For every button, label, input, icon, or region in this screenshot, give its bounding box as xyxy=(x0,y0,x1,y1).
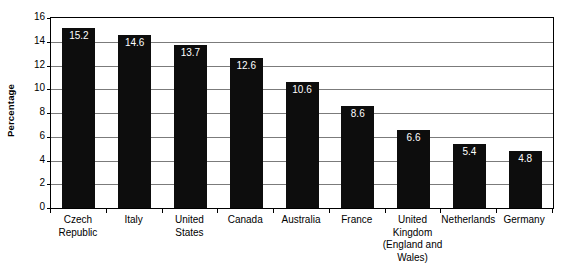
bar-value-label: 12.6 xyxy=(230,60,263,71)
x-axis-tick-mark xyxy=(273,208,274,213)
x-axis-category-label: Germany xyxy=(490,214,558,227)
bar: 15.2 xyxy=(62,28,95,209)
bar: 5.4 xyxy=(453,144,486,208)
x-axis-category-label-line: Republic xyxy=(44,227,112,240)
y-axis-tick-label: 6 xyxy=(22,131,45,141)
bar: 6.6 xyxy=(397,130,430,208)
x-axis-tick-mark xyxy=(162,208,163,213)
x-axis-tick-mark xyxy=(496,208,497,213)
x-axis-tick-mark xyxy=(106,208,107,213)
bar-value-label: 8.6 xyxy=(341,108,374,119)
bar: 14.6 xyxy=(118,35,151,208)
bar-value-label: 5.4 xyxy=(453,146,486,157)
y-axis-tick-label: 2 xyxy=(22,178,45,188)
x-axis-category-label-line: (England and xyxy=(379,239,447,252)
x-axis-tick-mark xyxy=(217,208,218,213)
bar-value-label: 14.6 xyxy=(118,37,151,48)
x-axis-category-label-line: States xyxy=(156,227,224,240)
bar: 13.7 xyxy=(174,45,207,208)
bar: 4.8 xyxy=(509,151,542,208)
y-axis-tick-label: 12 xyxy=(22,60,45,70)
y-axis-title: Percentage xyxy=(0,60,22,160)
x-axis-tick-mark xyxy=(552,208,553,213)
bar: 12.6 xyxy=(230,58,263,208)
y-axis-title-label: Percentage xyxy=(6,83,17,136)
x-axis-tick-mark xyxy=(385,208,386,213)
y-axis-tick-label: 16 xyxy=(22,12,45,22)
bar: 8.6 xyxy=(341,106,374,208)
x-axis-category-label-line: Wales) xyxy=(379,252,447,265)
bar-value-label: 10.6 xyxy=(286,84,319,95)
bar-value-label: 15.2 xyxy=(62,30,95,41)
x-axis-category-label-line: Kingdom xyxy=(379,227,447,240)
bar: 10.6 xyxy=(286,82,319,208)
x-axis-tick-mark xyxy=(329,208,330,213)
bar-value-label: 4.8 xyxy=(509,153,542,164)
y-axis-tick-label: 10 xyxy=(22,83,45,93)
plot-area: 15.214.613.712.610.68.66.65.44.8 xyxy=(50,17,554,209)
x-axis-category-label-line: Germany xyxy=(490,214,558,227)
x-axis-tick-mark xyxy=(440,208,441,213)
bars-layer: 15.214.613.712.610.68.66.65.44.8 xyxy=(51,18,553,208)
y-axis-tick-label: 8 xyxy=(22,107,45,117)
bar-value-label: 13.7 xyxy=(174,47,207,58)
bar-chart: Percentage 1614121086420 15.214.613.712.… xyxy=(0,0,571,278)
y-axis-tick-labels: 1614121086420 xyxy=(22,17,45,207)
bar-value-label: 6.6 xyxy=(397,132,430,143)
x-axis-tick-mark xyxy=(50,208,51,213)
y-axis-tick-label: 14 xyxy=(22,36,45,46)
y-axis-tick-label: 4 xyxy=(22,155,45,165)
x-axis-category-labels: CzechRepublicItalyUnitedStatesCanadaAust… xyxy=(50,214,552,276)
y-axis-tick-label: 0 xyxy=(22,202,45,212)
